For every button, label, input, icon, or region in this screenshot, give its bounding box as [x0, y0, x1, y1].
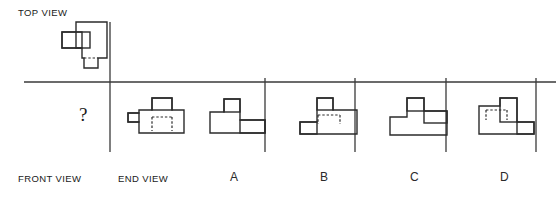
option-a-right-block: [240, 120, 265, 133]
option-d-top-block: [500, 98, 517, 122]
projection-puzzle-figure: TOP VIEW FRONT VIEW END VIEW ? A B C D: [0, 0, 559, 205]
option-a-outline: [210, 99, 265, 133]
top-view-overlap-rect: [76, 32, 90, 48]
option-b-left-block: [300, 122, 317, 134]
option-c-right-block: [424, 111, 447, 123]
end-view-shape: [128, 98, 184, 133]
option-c-crosshair: [376, 78, 466, 152]
option-a-top-block: [224, 99, 240, 112]
option-c-shape[interactable]: [390, 98, 447, 135]
option-b-outline: [300, 98, 357, 134]
top-view-outline: [62, 22, 107, 68]
option-d-hidden-edges: [486, 110, 507, 120]
option-d-right-block: [517, 122, 534, 134]
end-view-outline: [128, 98, 184, 133]
top-view-inner-rect: [62, 32, 82, 48]
option-b-top-block: [317, 98, 333, 110]
option-b-hidden-edges: [318, 115, 340, 124]
end-view-hidden-edges: [152, 117, 172, 131]
top-view-shape: [62, 22, 107, 68]
option-c-outline: [390, 98, 447, 135]
end-view-left-block: [128, 113, 139, 122]
option-b-shape[interactable]: [300, 98, 357, 134]
option-c-top-block: [407, 98, 424, 111]
drawing-canvas: [0, 0, 559, 205]
end-view-top-block: [152, 98, 172, 110]
option-d-shape[interactable]: [479, 98, 534, 134]
option-a-shape[interactable]: [210, 99, 265, 133]
